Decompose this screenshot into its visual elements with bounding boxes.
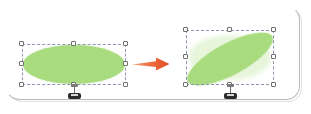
rotation-handle-after[interactable] — [224, 93, 237, 99]
screenshot-root — [0, 0, 311, 114]
handle-top-center[interactable] — [71, 41, 76, 46]
handle-bottom-left[interactable] — [183, 82, 188, 87]
handle-top-right[interactable] — [271, 27, 276, 32]
rotation-cap-after — [227, 84, 234, 87]
rotation-cap-before — [71, 84, 78, 87]
selection-bounding-box-after — [186, 30, 274, 85]
handle-bottom-right[interactable] — [271, 82, 276, 87]
handle-top-left[interactable] — [19, 41, 24, 46]
handle-middle-left[interactable] — [19, 61, 24, 66]
shape-group-after[interactable] — [186, 30, 274, 85]
handle-bottom-left[interactable] — [19, 82, 24, 87]
handle-top-center[interactable] — [227, 27, 232, 32]
shape-group-before[interactable] — [22, 44, 126, 85]
selection-bounding-box-before — [22, 44, 126, 85]
handle-middle-right[interactable] — [123, 61, 128, 66]
handle-bottom-right[interactable] — [123, 82, 128, 87]
handle-middle-left[interactable] — [183, 54, 188, 59]
handle-middle-right[interactable] — [271, 54, 276, 59]
handle-top-left[interactable] — [183, 27, 188, 32]
handle-top-right[interactable] — [123, 41, 128, 46]
right-arrow-icon — [132, 56, 170, 72]
rotation-handle-before[interactable] — [68, 93, 81, 99]
